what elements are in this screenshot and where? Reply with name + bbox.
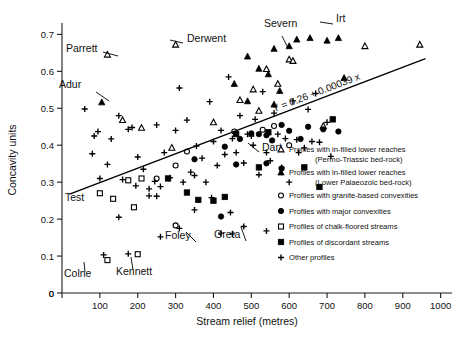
legend-marker: [279, 193, 284, 198]
x-tick-label: 200: [130, 300, 146, 311]
data-point: [279, 122, 284, 127]
data-point: [157, 234, 163, 240]
data-point: [214, 163, 220, 169]
data-point: [307, 35, 313, 41]
data-point: [125, 251, 131, 257]
data-point: [256, 165, 261, 170]
data-point: [298, 136, 303, 141]
legend-label: Other profiles: [289, 253, 335, 262]
data-point: [222, 151, 228, 157]
x-tick-label: 100: [92, 300, 108, 311]
y-tick-label: 0.4: [41, 140, 54, 151]
annotation-label: Parrett: [66, 42, 98, 54]
data-point: [336, 129, 341, 134]
data-point: [126, 178, 131, 183]
data-point: [233, 150, 239, 156]
data-point: [241, 160, 247, 166]
legend-marker: [279, 224, 284, 229]
data-point: [120, 117, 126, 123]
data-point: [286, 179, 292, 185]
data-point: [321, 127, 326, 132]
legend-marker: [278, 255, 284, 261]
x-tick-label: 500: [243, 300, 259, 311]
x-tick-label: 700: [319, 300, 335, 311]
data-point: [154, 193, 160, 199]
data-point: [108, 136, 114, 142]
data-point: [196, 197, 201, 202]
data-point: [260, 127, 265, 132]
data-point: [97, 175, 103, 181]
regression-equation: Y = 0.26 + 0.00039 x: [271, 71, 362, 114]
x-tick-label: 400: [206, 300, 222, 311]
data-point: [146, 193, 152, 199]
data-point: [263, 228, 269, 234]
legend-marker: [278, 239, 283, 244]
data-point: [237, 97, 243, 103]
x-tick-label: 1000: [430, 300, 451, 311]
y-tick-label: 0.1: [41, 251, 54, 262]
data-point: [95, 129, 101, 135]
data-point: [266, 130, 271, 135]
data-point: [233, 162, 238, 167]
data-point: [226, 74, 232, 80]
data-point: [139, 125, 145, 131]
data-point: [250, 86, 256, 92]
data-point: [169, 145, 175, 151]
data-point: [131, 205, 136, 210]
data-point: [116, 214, 122, 220]
annotation-label: Derwent: [187, 32, 226, 44]
data-point: [192, 207, 198, 213]
data-point: [116, 113, 122, 119]
y-tick-label: 0.3: [41, 177, 54, 188]
x-tick-label: 900: [395, 300, 411, 311]
data-point: [256, 172, 262, 178]
y-tick-label: 0.2: [41, 214, 54, 225]
y-tick-label: 0.5: [41, 103, 54, 114]
data-point: [120, 177, 126, 183]
data-point: [227, 209, 233, 215]
y-tick-label: 0.6: [41, 66, 54, 77]
data-point: [207, 99, 213, 105]
data-point: [256, 131, 261, 136]
data-point: [135, 252, 140, 257]
data-point: [233, 131, 238, 136]
data-point: [264, 161, 269, 166]
data-point: [199, 155, 205, 161]
data-point: [294, 36, 300, 42]
annotation-label: Severn: [264, 17, 297, 29]
x-tick-label: 800: [357, 300, 373, 311]
data-point: [184, 117, 190, 123]
data-point: [272, 124, 277, 129]
data-point: [154, 122, 160, 128]
legend-sublabel: (Permo-Triassic bed-rock): [315, 155, 403, 164]
data-point: [417, 42, 423, 48]
data-point: [111, 196, 116, 201]
data-point: [173, 42, 179, 48]
data-point: [192, 173, 198, 179]
data-point: [260, 89, 266, 95]
data-point: [82, 106, 88, 112]
data-point: [97, 191, 102, 196]
annotation-label: Irt: [336, 12, 345, 24]
legend-label: Profiles of discordant streams: [289, 238, 389, 247]
x-tick-label: 600: [281, 300, 297, 311]
data-point: [99, 99, 105, 105]
data-point: [157, 184, 163, 190]
data-point: [335, 35, 341, 41]
data-point: [305, 124, 310, 129]
data-point: [184, 190, 189, 195]
data-point: [180, 179, 186, 185]
data-point: [89, 151, 95, 157]
annotation-leader: [320, 22, 333, 24]
data-point: [173, 163, 178, 168]
y-tick-label: 0.7: [41, 29, 54, 40]
y-axis-title: Concavity units: [6, 124, 18, 195]
legend-marker: [278, 208, 283, 213]
data-point: [105, 258, 110, 263]
data-point: [146, 186, 152, 192]
annotation-label: Greta: [214, 228, 240, 240]
data-point: [362, 43, 368, 49]
chart-canvas: 100200300400500600700800900100000.10.20.…: [0, 0, 457, 337]
data-point: [305, 106, 311, 112]
x-tick-label: 300: [168, 300, 184, 311]
